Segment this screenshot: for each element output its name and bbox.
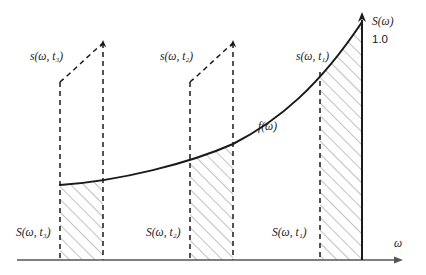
spike-curve-t2 (190, 43, 233, 82)
under-curve-clip (60, 0, 362, 275)
shaded-band-t3 (60, 0, 103, 275)
spike-label-t2: s(ω, t₂) (160, 50, 193, 63)
spike-label-t3: s(ω, t₃) (30, 50, 63, 63)
spectral-density-figure: S(ω) 1.0 ω f(ω) s(ω, t₃) s(ω, t₂) s(ω, t… (0, 0, 426, 275)
shaded-band-t2 (190, 0, 233, 275)
area-label-t1: S(ω, t₁) (272, 226, 307, 239)
figure-canvas: S(ω) 1.0 ω f(ω) s(ω, t₃) s(ω, t₂) s(ω, t… (0, 0, 426, 275)
spike-label-t1: s(ω, t₁) (296, 50, 329, 63)
f-omega-label: f(ω) (258, 120, 277, 133)
area-label-t2: S(ω, t₂) (146, 226, 181, 239)
shaded-band-group (60, 0, 362, 275)
x-axis-arrow (394, 256, 403, 263)
y-axis-max-tick: 1.0 (372, 33, 388, 45)
spike-curve-t3 (60, 43, 103, 82)
area-label-t3: S(ω, t₃) (16, 226, 51, 239)
y-axis-label: S(ω) (372, 15, 394, 28)
shaded-band-t1 (320, 0, 362, 275)
x-axis-label: ω (394, 237, 402, 249)
